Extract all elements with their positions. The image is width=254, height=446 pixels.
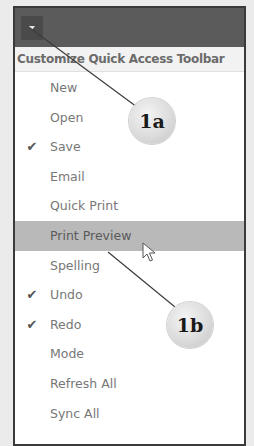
checkmark-icon: ✔ xyxy=(25,132,39,162)
menu-item-mode[interactable]: Mode xyxy=(15,339,244,369)
menu-item-label: Save xyxy=(50,139,81,154)
menu-item-print-preview[interactable]: Print Preview xyxy=(15,221,244,251)
menu-item-label: Redo xyxy=(50,317,81,332)
menu-item-quick-print[interactable]: Quick Print xyxy=(15,191,244,221)
qat-customize-window: Customize Quick Access Toolbar New Open … xyxy=(13,6,246,446)
menu-item-label: Mode xyxy=(50,346,84,361)
menu-item-new[interactable]: New xyxy=(15,73,244,103)
callout-label: 1b xyxy=(177,314,204,336)
menu-item-label: Email xyxy=(50,169,85,184)
customize-qat-dropdown-button[interactable] xyxy=(21,16,43,40)
menu-item-undo[interactable]: ✔ Undo xyxy=(15,280,244,310)
menu-item-label: Print Preview xyxy=(50,228,131,243)
callout-badge-1b: 1b xyxy=(167,302,213,348)
chevron-down-icon xyxy=(29,26,35,30)
menu-item-label: Quick Print xyxy=(50,198,118,213)
callout-badge-1a: 1a xyxy=(129,98,175,144)
menu-item-label: Sync All xyxy=(50,406,100,421)
menu-item-label: Refresh All xyxy=(50,376,117,391)
checkmark-icon: ✔ xyxy=(25,310,39,340)
menu-item-sync-all[interactable]: Sync All xyxy=(15,399,244,429)
menu-item-spelling[interactable]: Spelling xyxy=(15,251,244,281)
menu-item-label: New xyxy=(50,80,77,95)
menu-item-save[interactable]: ✔ Save xyxy=(15,132,244,162)
menu-title: Customize Quick Access Toolbar xyxy=(15,47,244,72)
menu-item-email[interactable]: Email xyxy=(15,162,244,192)
menu-item-label: Undo xyxy=(50,287,83,302)
callout-label: 1a xyxy=(139,110,165,132)
menu-item-refresh-all[interactable]: Refresh All xyxy=(15,369,244,399)
menu-item-label: Open xyxy=(50,110,83,125)
checkmark-icon: ✔ xyxy=(25,280,39,310)
quick-access-toolbar xyxy=(15,8,244,47)
menu-item-label: Spelling xyxy=(50,258,100,273)
